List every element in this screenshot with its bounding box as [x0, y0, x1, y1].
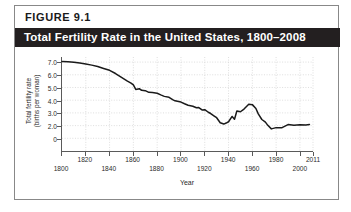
- x-axis-tick-label: 1940: [221, 156, 236, 163]
- x-axis-tick-label: 1880: [149, 165, 164, 172]
- figure-number-label: FIGURE 9.1: [25, 11, 91, 23]
- x-axis-tick-label: 1960: [245, 165, 260, 172]
- x-axis-tick-label: 2000: [293, 165, 308, 172]
- y-axis-tick-label: 7.0: [48, 59, 57, 66]
- x-axis-tick-label: 1840: [101, 165, 116, 172]
- fertility-rate-line: [62, 57, 313, 151]
- x-axis-tick-label: 1900: [173, 156, 188, 163]
- x-axis-title: Year: [61, 179, 313, 186]
- y-axis-tick-label: 4.0: [48, 97, 57, 104]
- chart: Total fertility rate (births per woman) …: [15, 47, 340, 201]
- y-axis-tick-label: 6.0: [48, 71, 57, 78]
- figure-title-bar: Total Fertility Rate in the United State…: [15, 28, 340, 47]
- figure-title: Total Fertility Rate in the United State…: [24, 31, 306, 43]
- y-axis-tick-labels: 7.06.05.04.03.02.00: [33, 57, 57, 152]
- x-axis-tick-label: 1820: [78, 156, 93, 163]
- x-axis-tick-label: 2011: [306, 156, 320, 163]
- x-axis-tick-label: 1860: [125, 156, 140, 163]
- plot-area: [61, 57, 313, 152]
- x-axis-tick-labels: 1800182018401860188019001920194019601980…: [61, 156, 313, 178]
- y-axis-title-line-1: Total fertility rate: [25, 57, 33, 145]
- x-axis-tick-label: 1800: [54, 165, 69, 172]
- figure-container: FIGURE 9.1 Total Fertility Rate in the U…: [14, 5, 339, 200]
- y-axis-tick-label: 5.0: [48, 84, 57, 91]
- x-axis-tick-label: 1920: [197, 165, 212, 172]
- x-axis-tick-label: 1980: [269, 156, 284, 163]
- y-axis-tick-label: 2.0: [48, 123, 57, 130]
- y-axis-tick-label: 3.0: [48, 110, 57, 117]
